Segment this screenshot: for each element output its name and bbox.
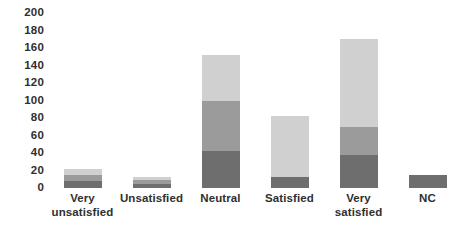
y-tick-label: 40 (0, 147, 44, 158)
bar-segment[interactable] (340, 127, 378, 155)
bar-group (48, 13, 117, 188)
bar-stack[interactable] (409, 175, 447, 188)
y-tick-label: 20 (0, 165, 44, 176)
x-tick-label-line2: satisfied (312, 205, 405, 219)
y-tick-label: 140 (0, 60, 44, 71)
bar-segment[interactable] (409, 175, 447, 188)
x-tick-label-line1: NC (419, 192, 436, 204)
y-axis: 200180160140120100806040200 (0, 0, 44, 200)
bar-chart: 200180160140120100806040200 Veryunsatisf… (0, 0, 465, 241)
bar-stack[interactable] (271, 116, 309, 188)
bar-group (324, 13, 393, 188)
bar-stack[interactable] (202, 55, 240, 188)
bar-group (255, 13, 324, 188)
y-tick-label: 160 (0, 42, 44, 53)
bar-segment[interactable] (133, 184, 171, 188)
bar-stack[interactable] (64, 169, 102, 188)
y-tick-label: 60 (0, 130, 44, 141)
bar-group (117, 13, 186, 188)
plot-area (48, 13, 462, 188)
x-tick-label-line1: Satisfied (265, 192, 314, 204)
y-tick-label: 100 (0, 95, 44, 106)
bar-stack[interactable] (340, 39, 378, 188)
x-tick-label-line2: unsatisfied (36, 205, 129, 219)
y-tick-label: 180 (0, 25, 44, 36)
y-tick-label: 80 (0, 112, 44, 123)
bar-stack[interactable] (133, 177, 171, 188)
bar-segment[interactable] (64, 181, 102, 188)
y-tick-label: 200 (0, 7, 44, 18)
bar-group (393, 13, 462, 188)
bar-segment[interactable] (202, 151, 240, 188)
x-tick-label-line1: Very (346, 192, 371, 204)
x-tick-label: NC (381, 191, 465, 205)
x-tick-label-line1: Neutral (200, 192, 240, 204)
bar-segment[interactable] (202, 101, 240, 152)
x-tick-label-line1: Very (70, 192, 95, 204)
x-axis: VeryunsatisfiedUnsatisfiedNeutralSatisfi… (48, 191, 462, 239)
y-tick-label: 120 (0, 77, 44, 88)
bar-segment[interactable] (340, 155, 378, 188)
bar-segment[interactable] (340, 39, 378, 127)
bar-group (186, 13, 255, 188)
bar-segment[interactable] (271, 116, 309, 176)
bar-segment[interactable] (202, 55, 240, 101)
bar-segment[interactable] (271, 177, 309, 188)
